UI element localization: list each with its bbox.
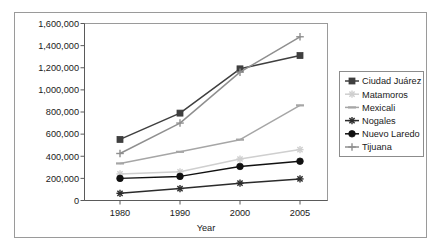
line-chart: 0200,000400,000600,000800,0001,000,0001,… <box>15 13 426 237</box>
legend-item-label: Nuevo Laredo <box>362 129 420 139</box>
legend-item-label: Tijuana <box>362 142 393 152</box>
legend: Ciudad JuárezMatamorosMexicaliNogalesNue… <box>340 72 424 157</box>
chart-figure: 0200,000400,000600,000800,0001,000,0001,… <box>14 12 427 238</box>
y-tick-label: 0 <box>74 196 79 206</box>
data-point-marker <box>348 117 355 124</box>
y-tick-label: 200,000 <box>46 174 79 184</box>
data-point-marker <box>297 53 303 59</box>
legend-item-label: Ciudad Juárez <box>362 76 422 86</box>
legend-item-label: Mexicali <box>362 103 395 113</box>
x-axis-title: Year <box>197 223 216 233</box>
x-axis-tick-labels: 1980199020002005 <box>110 208 310 218</box>
y-axis-tick-labels: 0200,000400,000600,000800,0001,000,0001,… <box>38 19 79 206</box>
y-tick-label: 1,200,000 <box>38 63 79 73</box>
y-tick-label: 800,000 <box>46 107 79 117</box>
y-tick-label: 400,000 <box>46 152 79 162</box>
y-tick-label: 1,400,000 <box>38 41 79 51</box>
x-tick-label: 2000 <box>230 208 250 218</box>
legend-item-label: Matamoros <box>362 90 408 100</box>
data-point-marker <box>117 136 123 142</box>
x-tick-label: 1980 <box>110 208 130 218</box>
y-tick-label: 600,000 <box>46 129 79 139</box>
data-point-marker <box>349 131 356 138</box>
data-point-marker <box>176 185 183 192</box>
y-tick-label: 1,600,000 <box>38 19 79 29</box>
y-axis-tick-marks <box>81 24 85 201</box>
legend-item-label: Nogales <box>362 116 396 126</box>
data-point-marker <box>237 163 244 170</box>
x-tick-label: 1990 <box>170 208 190 218</box>
data-point-marker <box>236 155 243 162</box>
data-point-marker <box>349 78 355 84</box>
y-tick-label: 1,000,000 <box>38 85 79 95</box>
data-point-marker <box>348 91 355 98</box>
data-point-marker <box>296 175 303 182</box>
data-point-marker <box>297 158 304 165</box>
x-tick-label: 2005 <box>290 208 310 218</box>
data-point-marker <box>236 180 243 187</box>
data-point-marker <box>177 173 184 180</box>
x-axis-tick-marks <box>120 201 300 205</box>
chart-canvas: 0200,000400,000600,000800,0001,000,0001,… <box>15 13 426 237</box>
data-point-marker <box>296 146 303 153</box>
data-point-marker <box>177 110 183 116</box>
data-point-marker <box>117 175 124 182</box>
data-point-marker <box>116 190 123 197</box>
